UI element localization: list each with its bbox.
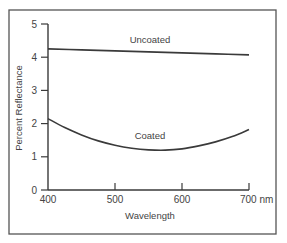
y-axis-title: Percent Reflectance — [13, 65, 24, 151]
x-tick-label: 600 — [174, 194, 191, 205]
chart-figure: 012345400500600700 nm UncoatedCoated Per… — [0, 0, 287, 243]
y-tick-label: 2 — [31, 118, 37, 129]
axes: 012345400500600700 nm — [31, 19, 273, 206]
y-tick-label: 0 — [31, 185, 37, 196]
x-tick-label: 700 nm — [240, 194, 273, 205]
y-tick-label: 5 — [31, 19, 37, 30]
y-tick-label: 1 — [31, 151, 37, 162]
y-tick-label: 4 — [31, 52, 37, 63]
series-line-uncoated — [48, 49, 249, 55]
x-tick-label: 400 — [40, 194, 57, 205]
x-tick-label: 500 — [107, 194, 124, 205]
labels-group: UncoatedCoated — [130, 34, 171, 141]
y-tick-label: 3 — [31, 85, 37, 96]
x-axis-title: Wavelength — [125, 210, 175, 221]
series-label-uncoated: Uncoated — [130, 34, 171, 45]
series-label-coated: Coated — [135, 130, 166, 141]
